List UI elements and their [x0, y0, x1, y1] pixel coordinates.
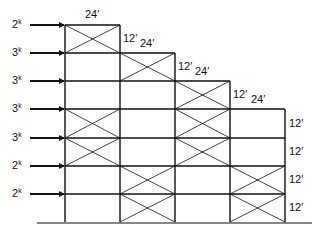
- load-label: 2k: [12, 160, 22, 171]
- bay-width-label: 24′: [140, 38, 154, 49]
- load-label: 3k: [12, 47, 22, 58]
- story-height-label: 12′: [289, 174, 303, 185]
- story-height-label: 12′: [289, 118, 303, 129]
- load-label: 3k: [12, 132, 22, 143]
- frame-drawing: [0, 0, 321, 234]
- story-height-label: 12′: [289, 146, 303, 157]
- load-label: 2k: [12, 188, 22, 199]
- load-label: 3k: [12, 75, 22, 86]
- story-height-label: 12′: [178, 61, 192, 72]
- bay-width-label: 24′: [195, 66, 209, 77]
- bay-width-label: 24′: [85, 9, 99, 20]
- story-height-label: 12′: [289, 202, 303, 213]
- load-label: 3k: [12, 103, 22, 114]
- braced-frame-diagram: 2k3k3k3k3k2k2k24′24′24′24′12′12′12′12′12…: [0, 0, 321, 234]
- story-height-label: 12′: [233, 89, 247, 100]
- story-height-label: 12′: [123, 33, 137, 44]
- load-label: 2k: [12, 19, 22, 30]
- bay-width-label: 24′: [251, 94, 265, 105]
